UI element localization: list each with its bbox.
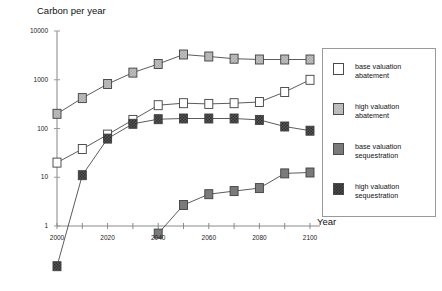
data-point-marker — [154, 60, 162, 69]
data-point-marker — [230, 187, 238, 196]
chart-figure: Carbon per year Year 100001000100101 200… — [0, 0, 442, 291]
legend-swatch-icon — [333, 63, 344, 75]
data-point-marker — [255, 184, 263, 193]
y-tick-label: 100 — [18, 125, 48, 132]
data-point-marker — [230, 114, 238, 123]
legend-label: high valuation abatement — [355, 102, 399, 120]
legend-item: high valuation sequestration — [333, 182, 399, 200]
data-point-marker — [129, 68, 137, 77]
y-tick-label: 10000 — [18, 27, 48, 34]
legend-item: base valuation sequestration — [333, 142, 401, 160]
chart-legend: base valuation abatementhigh valuation a… — [322, 48, 436, 217]
data-point-marker — [180, 99, 188, 108]
legend-item: high valuation abatement — [333, 102, 399, 120]
legend-item: base valuation abatement — [333, 62, 401, 80]
data-point-marker — [205, 114, 213, 123]
legend-label: high valuation sequestration — [355, 182, 399, 200]
data-point-marker — [154, 115, 162, 124]
data-point-marker — [154, 101, 162, 110]
data-point-marker — [281, 122, 289, 131]
data-point-marker — [230, 54, 238, 63]
data-point-marker — [306, 55, 314, 64]
x-tick-label: 2100 — [293, 234, 327, 241]
y-tick-label: 10 — [18, 173, 48, 180]
legend-label: base valuation sequestration — [355, 142, 401, 160]
data-point-marker — [281, 88, 289, 97]
data-point-marker — [255, 115, 263, 124]
x-tick-label: 2000 — [40, 234, 74, 241]
legend-label: base valuation abatement — [355, 62, 401, 80]
data-point-marker — [230, 99, 238, 108]
data-point-marker — [205, 99, 213, 108]
data-point-marker — [205, 190, 213, 199]
data-point-marker — [306, 168, 314, 177]
data-point-marker — [255, 98, 263, 107]
data-point-marker — [53, 262, 61, 271]
data-point-marker — [205, 52, 213, 61]
x-tick-label: 2020 — [91, 234, 125, 241]
data-point-marker — [306, 75, 314, 84]
series-line — [57, 119, 310, 267]
x-tick-label: 2040 — [141, 234, 175, 241]
y-tick-label: 1000 — [18, 76, 48, 83]
data-point-marker — [180, 114, 188, 123]
data-point-marker — [129, 119, 137, 128]
data-point-marker — [281, 169, 289, 178]
data-point-marker — [281, 55, 289, 64]
data-point-marker — [104, 80, 112, 89]
data-point-marker — [180, 50, 188, 59]
data-point-marker — [78, 171, 86, 180]
data-point-marker — [53, 109, 61, 118]
data-point-marker — [78, 145, 86, 154]
y-tick-label: 1 — [18, 222, 48, 229]
x-tick-label: 2080 — [242, 234, 276, 241]
data-point-marker — [306, 126, 314, 135]
data-point-marker — [78, 94, 86, 103]
data-point-marker — [180, 201, 188, 210]
x-tick-label: 2060 — [192, 234, 226, 241]
data-point-marker — [53, 158, 61, 167]
data-point-marker — [104, 134, 112, 143]
data-point-marker — [255, 55, 263, 64]
legend-swatch-icon — [333, 103, 344, 115]
legend-swatch-icon — [333, 143, 344, 155]
legend-swatch-icon — [333, 183, 344, 195]
